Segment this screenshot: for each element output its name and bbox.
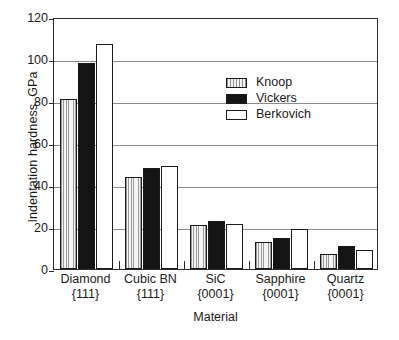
category-name: Sapphire (248, 272, 313, 287)
legend-swatch-vickers-icon (226, 94, 247, 104)
x-axis-minor-tick (314, 261, 315, 270)
legend-label-berkovich: Berkovich (256, 108, 311, 121)
x-axis-category-labels: Diamond{111}Cubic BN{111}SiC{0001}Sapphi… (53, 272, 378, 308)
legend-swatch-berkovich-icon (226, 110, 247, 120)
y-axis-tick-label: 0 (14, 264, 48, 277)
legend-label-knoop: Knoop (256, 76, 292, 89)
legend-label-vickers: Vickers (256, 92, 297, 105)
y-axis-tick-label: 20 (14, 222, 48, 235)
y-axis-tick-label: 100 (14, 54, 48, 67)
category-plane: {111} (118, 287, 183, 302)
legend-item-berkovich: Berkovich (226, 107, 346, 122)
x-axis-category-label: Quartz{0001} (313, 272, 378, 301)
bar-knoop-4 (320, 254, 338, 269)
category-plane: {0001} (183, 287, 248, 302)
y-axis-tick-label: 40 (14, 180, 48, 193)
category-name: SiC (183, 272, 248, 287)
category-name: Quartz (313, 272, 378, 287)
y-axis-tick-label: 80 (14, 96, 48, 109)
category-plane: {0001} (313, 287, 378, 302)
legend-item-knoop: Knoop (226, 75, 346, 90)
bars-layer (54, 19, 377, 269)
category-name: Diamond (53, 272, 118, 287)
y-axis-tick-label: 60 (14, 138, 48, 151)
category-plane: {111} (53, 287, 118, 302)
bar-berkovich-4 (356, 250, 374, 269)
chart-legend: Knoop Vickers Berkovich (226, 75, 346, 123)
bar-group (54, 19, 379, 269)
bar-chart: Indentation hardness, GPa 02040608010012… (0, 0, 399, 340)
x-axis-title: Material (53, 310, 378, 324)
bar-vickers-4 (338, 246, 356, 269)
y-axis-tick-label: 120 (14, 12, 48, 25)
x-axis-category-label: Sapphire{0001} (248, 272, 313, 301)
category-plane: {0001} (248, 287, 313, 302)
plot-area: Knoop Vickers Berkovich (53, 18, 378, 270)
x-axis-category-label: Diamond{111} (53, 272, 118, 301)
category-name: Cubic BN (118, 272, 183, 287)
legend-swatch-knoop-icon (226, 78, 247, 88)
y-axis-tick-labels: 020406080100120 (10, 0, 48, 340)
legend-item-vickers: Vickers (226, 91, 346, 106)
x-axis-category-label: Cubic BN{111} (118, 272, 183, 301)
x-axis-category-label: SiC{0001} (183, 272, 248, 301)
